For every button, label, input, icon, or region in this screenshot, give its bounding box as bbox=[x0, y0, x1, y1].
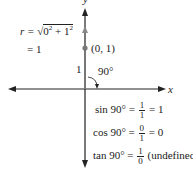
sine-result: = 1 bbox=[146, 103, 163, 115]
x-axis-label: x bbox=[168, 84, 173, 95]
x-axis-left-arrow-icon bbox=[8, 86, 16, 92]
tangent-lhs: tan 90° = bbox=[93, 149, 136, 161]
sine-lhs: sin 90° = bbox=[95, 103, 138, 115]
tangent-equation: tan 90° = 10 (undefined) bbox=[93, 147, 193, 166]
x-axis-right-arrow-icon bbox=[158, 86, 166, 92]
y-axis-label: y bbox=[83, 0, 88, 5]
angle-arrow-icon bbox=[95, 84, 99, 89]
tangent-fraction: 10 bbox=[137, 147, 144, 166]
tangent-denominator: 0 bbox=[137, 157, 144, 166]
cosine-denominator: 1 bbox=[139, 134, 146, 143]
cosine-equation: cos 90° = 01 = 0 bbox=[93, 124, 163, 143]
point-marker bbox=[82, 45, 87, 50]
radius-formula: r = √02 + 12 bbox=[20, 25, 73, 37]
radius-prefix: r = bbox=[20, 25, 37, 37]
radius-result: = 1 bbox=[27, 44, 41, 55]
segment-length-label: 1 bbox=[76, 64, 82, 75]
sine-equation: sin 90° = 11 = 1 bbox=[95, 101, 163, 120]
angle-label: 90° bbox=[98, 66, 113, 77]
y-axis-top-arrow-icon bbox=[82, 8, 88, 16]
cosine-lhs: cos 90° = bbox=[93, 126, 138, 138]
cosine-fraction: 01 bbox=[139, 124, 146, 143]
y-axis-bottom-arrow-icon bbox=[82, 160, 88, 168]
point-label: (0, 1) bbox=[91, 43, 115, 54]
exponent-b: 2 bbox=[69, 24, 73, 32]
radicand-b: + 1 bbox=[52, 25, 69, 37]
sine-fraction: 11 bbox=[139, 101, 146, 120]
tangent-result: (undefined) bbox=[145, 149, 193, 161]
vector-arrow-icon bbox=[82, 26, 88, 33]
sine-denominator: 1 bbox=[139, 111, 146, 120]
cosine-result: = 0 bbox=[146, 126, 163, 138]
